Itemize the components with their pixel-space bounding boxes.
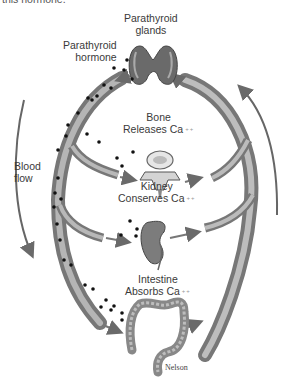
label-text: Conserves Ca bbox=[118, 192, 185, 204]
label-text: Absorbs Ca bbox=[125, 285, 180, 297]
right-blood-vessel bbox=[185, 80, 251, 355]
ion-charge: ++ bbox=[182, 288, 191, 294]
label-parathyroid-glands: Parathyroid glands bbox=[124, 12, 178, 36]
label-line: Absorbs Ca++ bbox=[125, 285, 191, 297]
label-line: Bone bbox=[123, 111, 194, 123]
label-kidney-conserves-ca: Kidney Conserves Ca++ bbox=[118, 180, 196, 204]
ion-charge: ++ bbox=[187, 195, 196, 201]
artist-signature: Nelson bbox=[165, 363, 188, 372]
label-line: Blood bbox=[14, 160, 41, 172]
arrow-from-kidney bbox=[170, 232, 198, 238]
arrow-to-intestine bbox=[103, 325, 120, 332]
label-line: hormone bbox=[63, 51, 117, 63]
intestine-icon bbox=[130, 302, 184, 372]
label-line: Parathyroid bbox=[124, 12, 178, 24]
label-line: glands bbox=[124, 24, 178, 36]
label-line: Intestine bbox=[125, 273, 191, 285]
label-parathyroid-hormone: Parathyroid hormone bbox=[63, 39, 117, 63]
label-text: Releases Ca bbox=[123, 123, 183, 135]
label-intestine-absorbs-ca: Intestine Absorbs Ca++ bbox=[125, 273, 191, 297]
left-blood-vessel bbox=[58, 78, 122, 323]
label-blood-flow: Blood flow bbox=[14, 160, 41, 184]
parathyroid-glands-icon bbox=[129, 46, 177, 84]
label-line: Releases Ca++ bbox=[123, 123, 194, 135]
label-line: Parathyroid bbox=[63, 39, 117, 51]
label-line: Conserves Ca++ bbox=[118, 192, 196, 204]
label-bone-releases-ca: Bone Releases Ca++ bbox=[123, 111, 194, 135]
left-branch-bone bbox=[72, 146, 118, 175]
ion-charge: ++ bbox=[185, 126, 194, 132]
kidney-icon bbox=[141, 221, 165, 270]
label-line: flow bbox=[14, 172, 41, 184]
arrow-to-kidney bbox=[106, 238, 128, 242]
label-line: Kidney bbox=[118, 180, 196, 192]
